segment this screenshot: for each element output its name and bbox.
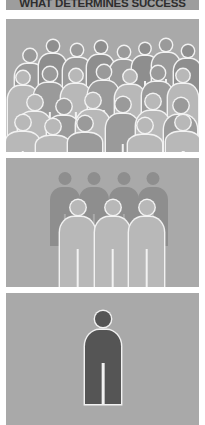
person-head bbox=[59, 172, 72, 185]
person-head bbox=[70, 69, 83, 82]
person-head bbox=[23, 49, 36, 62]
person-head bbox=[78, 116, 93, 131]
pictogram-person bbox=[60, 200, 95, 287]
pictogram-person bbox=[68, 116, 102, 152]
person-leg-gap bbox=[21, 151, 23, 152]
single-panel bbox=[6, 293, 199, 425]
person-head bbox=[95, 41, 107, 53]
person-head bbox=[140, 43, 151, 54]
person-head bbox=[56, 99, 71, 114]
person-body bbox=[68, 133, 102, 152]
pictogram-person bbox=[128, 118, 162, 152]
person-head bbox=[71, 44, 83, 56]
title-banner: WHAT DETERMINES SUCCESS bbox=[6, 0, 199, 10]
person-leg-gap bbox=[121, 144, 123, 152]
person-head bbox=[173, 98, 188, 113]
person-head bbox=[95, 311, 111, 327]
pictogram-person bbox=[166, 115, 199, 152]
person-head bbox=[176, 115, 191, 130]
person-head bbox=[15, 115, 30, 130]
person-head bbox=[47, 40, 59, 52]
person-head bbox=[105, 200, 120, 215]
crowd-figure-stage bbox=[6, 19, 199, 152]
group-figure-stage bbox=[6, 158, 199, 287]
person-head bbox=[27, 95, 42, 110]
person-body bbox=[128, 135, 162, 152]
page-title: WHAT DETERMINES SUCCESS bbox=[19, 0, 185, 10]
person-head bbox=[97, 65, 111, 79]
person-head bbox=[46, 119, 61, 134]
person-head bbox=[43, 67, 57, 81]
person-leg-gap bbox=[182, 151, 185, 152]
crowd-panel bbox=[6, 19, 199, 152]
person-head bbox=[147, 172, 160, 185]
pictogram-person bbox=[85, 311, 121, 404]
person-head bbox=[17, 71, 30, 84]
person-body bbox=[166, 132, 199, 152]
single-figure-stage bbox=[6, 293, 199, 425]
pictogram-person bbox=[129, 200, 164, 287]
person-head bbox=[118, 46, 130, 58]
infographic-root: WHAT DETERMINES SUCCESS bbox=[0, 0, 205, 425]
pictogram-person bbox=[95, 200, 130, 287]
person-head bbox=[146, 94, 161, 109]
pictogram-person bbox=[36, 119, 70, 152]
person-leg-gap bbox=[145, 249, 148, 287]
person-leg-gap bbox=[76, 249, 79, 287]
person-head bbox=[151, 66, 165, 80]
person-head bbox=[88, 172, 101, 185]
person-head bbox=[177, 69, 190, 82]
person-head bbox=[182, 45, 194, 57]
person-body bbox=[6, 132, 39, 152]
person-leg-gap bbox=[111, 249, 114, 287]
person-head bbox=[115, 97, 130, 112]
person-head bbox=[70, 200, 85, 215]
person-head bbox=[124, 70, 137, 83]
group-panel bbox=[6, 158, 199, 287]
person-head bbox=[86, 93, 101, 108]
person-leg-gap bbox=[102, 363, 105, 404]
person-head bbox=[138, 118, 153, 133]
person-head bbox=[160, 39, 172, 51]
pictogram-person bbox=[6, 115, 39, 152]
person-head bbox=[118, 172, 131, 185]
person-body bbox=[36, 136, 70, 152]
person-head bbox=[139, 200, 154, 215]
